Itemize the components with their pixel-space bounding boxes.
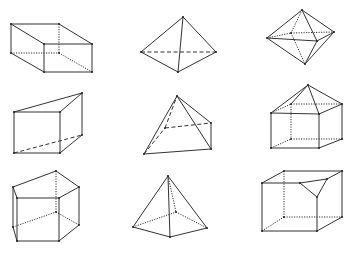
vertex-dot xyxy=(164,127,166,129)
vertex-dot xyxy=(210,122,212,124)
square-pyramid-figure xyxy=(132,175,208,238)
vertex-dot xyxy=(58,52,60,54)
vertex-dot xyxy=(176,95,178,97)
solid-edge xyxy=(327,171,342,179)
solid-edge xyxy=(11,53,44,72)
pentagonal-prism-figure xyxy=(12,170,80,242)
vertex-dot xyxy=(215,51,217,53)
dotted-edge xyxy=(291,10,302,33)
solid-edge xyxy=(13,187,17,198)
vertex-dot xyxy=(59,111,61,113)
solid-edge xyxy=(262,171,284,183)
vertex-dot xyxy=(81,134,83,136)
solid-edge xyxy=(183,17,216,52)
vertex-dot xyxy=(270,147,272,149)
solid-edge xyxy=(267,38,317,41)
dotted-edge xyxy=(13,212,56,227)
vertex-dot xyxy=(290,32,292,34)
polyhedra-diagram xyxy=(0,0,355,255)
solid-edge xyxy=(144,96,177,154)
vertex-dot xyxy=(210,148,212,150)
solid-edge xyxy=(141,52,178,72)
solid-edge xyxy=(13,171,56,187)
solid-edge xyxy=(59,187,79,198)
vertex-dot xyxy=(12,226,14,228)
vertex-dot xyxy=(12,186,14,188)
vertex-dot xyxy=(333,31,335,33)
solid-edge xyxy=(319,104,342,114)
solid-edge xyxy=(59,225,79,241)
solid-edge xyxy=(300,183,317,197)
vertex-dot xyxy=(132,226,134,228)
octahedron-figure xyxy=(266,9,335,65)
vertex-dot xyxy=(299,182,301,184)
solid-edge xyxy=(168,176,207,228)
vertex-dot xyxy=(283,216,285,218)
vertex-dot xyxy=(341,138,343,140)
solid-edge xyxy=(308,85,319,114)
solid-edge xyxy=(308,85,342,104)
dotted-edge xyxy=(176,212,207,228)
vertex-dot xyxy=(58,197,60,199)
solid-edge xyxy=(177,96,211,149)
vertex-dot xyxy=(78,186,80,188)
vertex-dot xyxy=(301,9,303,11)
vertex-dot xyxy=(177,71,179,73)
solid-edge xyxy=(144,149,211,154)
vertex-dot xyxy=(143,153,145,155)
vertex-dot xyxy=(13,152,15,154)
solid-edge xyxy=(271,85,308,113)
dotted-edge xyxy=(262,217,284,231)
solid-edge xyxy=(141,17,183,52)
solid-edge xyxy=(305,32,334,64)
triangular-pyramid-figure xyxy=(140,16,217,73)
vertex-dot xyxy=(316,230,318,232)
dotted-edge xyxy=(271,139,291,148)
vertex-dot xyxy=(43,43,45,45)
solid-edge xyxy=(13,227,17,241)
dashed-edge xyxy=(165,123,211,128)
dotted-edge xyxy=(59,53,92,72)
vertex-dot xyxy=(58,240,60,242)
vertex-dot xyxy=(13,111,15,113)
vertex-dot xyxy=(341,103,343,105)
vertex-dot xyxy=(290,103,292,105)
vertex-dot xyxy=(43,71,45,73)
solid-edge xyxy=(178,52,216,72)
vertex-dot xyxy=(316,40,318,42)
solid-edge xyxy=(319,139,342,148)
solid-edge xyxy=(11,24,44,44)
square-pyramid-tilted-figure xyxy=(143,95,212,155)
house-prism-pyramid-figure xyxy=(270,84,343,149)
solid-edge xyxy=(291,85,308,104)
solid-edge xyxy=(267,10,302,38)
solid-edge xyxy=(178,17,183,72)
vertex-dot xyxy=(307,84,309,86)
vertex-dot xyxy=(10,52,12,54)
solid-edge xyxy=(59,24,92,44)
vertex-dot xyxy=(59,152,61,154)
vertex-dot xyxy=(304,63,306,65)
vertex-dot xyxy=(169,236,171,238)
solid-edge xyxy=(317,217,342,231)
vertex-dot xyxy=(91,71,93,73)
vertex-dot xyxy=(206,227,208,229)
vertex-dot xyxy=(266,37,268,39)
vertex-dot xyxy=(318,147,320,149)
vertex-dot xyxy=(261,230,263,232)
vertex-dot xyxy=(283,170,285,172)
vertex-dot xyxy=(16,197,18,199)
solid-edge xyxy=(133,176,168,227)
solid-edge xyxy=(177,96,211,123)
vertex-dot xyxy=(16,240,18,242)
solid-edge xyxy=(317,179,327,197)
vertex-dot xyxy=(58,23,60,25)
dashed-edge xyxy=(144,128,165,154)
dashed-edge xyxy=(165,96,177,128)
vertex-dot xyxy=(326,178,328,180)
vertex-dot xyxy=(175,211,177,213)
vertex-dot xyxy=(316,196,318,198)
vertex-dot xyxy=(341,170,343,172)
truncated-cube-figure xyxy=(261,170,343,232)
rectangular-box-figure xyxy=(10,23,93,73)
